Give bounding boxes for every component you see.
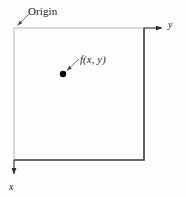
point-function-label: f(x, y): [80, 55, 106, 66]
figure-container: Origin f(x, y) y x: [0, 0, 186, 197]
sample-point-marker: [60, 71, 66, 77]
origin-label: Origin: [28, 6, 57, 17]
y-axis-label: y: [168, 20, 172, 30]
point-leader-line: [67, 59, 79, 71]
x-axis-label: x: [9, 182, 13, 192]
coordinate-system-diagram: [0, 0, 186, 197]
